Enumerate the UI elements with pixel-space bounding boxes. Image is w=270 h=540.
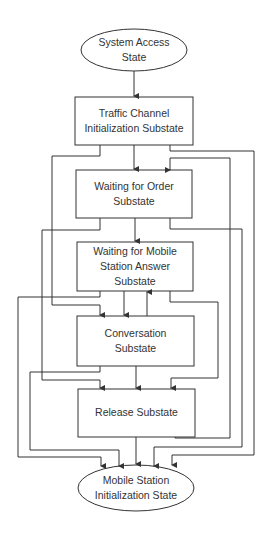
conversation-label: Conversation Substate (77, 326, 194, 356)
ms-init-label: Mobile Station Initialization State (78, 473, 194, 503)
waiting-for-ms-answer-label: Waiting for Mobile Station Answer Substa… (77, 244, 193, 289)
traffic-channel-init-label: Traffic Channel Initialization Substate (75, 106, 193, 136)
release-label: Release Substate (78, 405, 195, 420)
system-access-label: System Access State (81, 35, 187, 65)
waiting-for-order-label: Waiting for Order Substate (76, 179, 192, 209)
